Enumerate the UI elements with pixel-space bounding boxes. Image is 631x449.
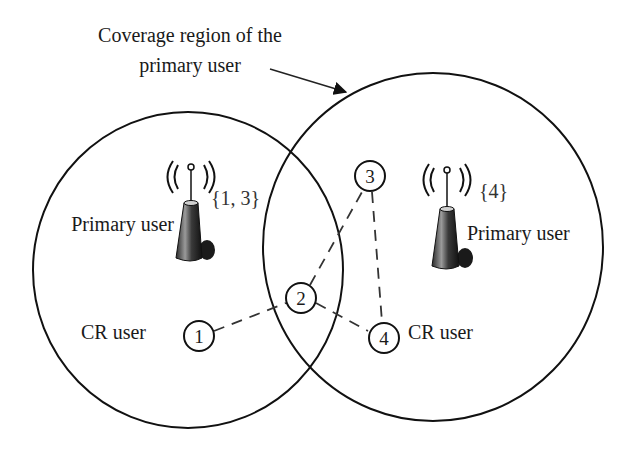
annotation-line1: Coverage region of the: [98, 24, 282, 47]
radio-tower-icon: [424, 164, 474, 269]
link-3-4: [372, 192, 382, 322]
link-2-3: [310, 192, 362, 285]
primary-user-label-left: Primary user: [71, 213, 174, 236]
cr-node-2: 2: [286, 283, 316, 313]
coverage-region-left: [33, 112, 343, 428]
annotation-line2: primary user: [139, 54, 241, 77]
radio-tower-icon: [168, 161, 216, 261]
cr-node-1: 1: [184, 321, 214, 351]
cr-user-label-right: CR user: [408, 321, 473, 343]
link-1-2: [214, 303, 286, 331]
node-label: 3: [365, 166, 375, 187]
channel-set-right: {4}: [479, 180, 508, 202]
annotation-arrow: [270, 69, 346, 92]
cognitive-radio-network-diagram: Coverage region of the primary user Prim…: [0, 0, 631, 449]
node-label: 2: [296, 288, 306, 309]
cr-user-label-left: CR user: [81, 321, 146, 343]
channel-set-left: {1, 3}: [211, 187, 260, 209]
primary-user-label-right: Primary user: [467, 222, 570, 245]
cr-node-4: 4: [369, 323, 399, 353]
cr-node-3: 3: [355, 161, 385, 191]
coverage-region-right: [263, 73, 603, 421]
node-label: 4: [379, 328, 389, 349]
link-2-4: [316, 303, 368, 331]
node-label: 1: [194, 326, 204, 347]
